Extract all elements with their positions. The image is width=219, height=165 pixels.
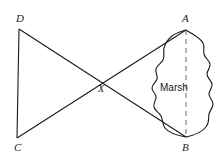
segment-DC xyxy=(17,29,19,138)
vertex-label-c: C xyxy=(14,142,21,153)
vertex-label-a: A xyxy=(182,13,189,24)
vertex-label-d: D xyxy=(16,13,24,24)
geometry-figure: D A C B X Marsh xyxy=(0,0,219,165)
vertex-label-x: X xyxy=(98,84,104,94)
region-label-marsh: Marsh xyxy=(160,83,188,93)
vertex-label-b: B xyxy=(182,142,189,153)
